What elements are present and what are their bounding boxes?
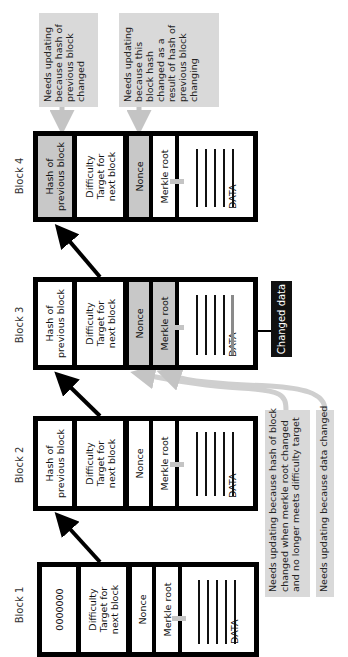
data-line [214, 149, 216, 207]
callout-block4-nonce: Needs updating because this block hash c… [119, 13, 219, 107]
block-2-nonce: Nonce [129, 421, 149, 506]
data-line [232, 149, 234, 207]
data-line [216, 580, 218, 644]
block-1-difficulty: Difficulty Target for next block [81, 567, 126, 652]
callout-block4-hash: Needs updating because hash of previous … [39, 13, 98, 107]
block-4-hash: Hash of previous block [38, 136, 72, 217]
changed-data-line [231, 295, 234, 355]
block-1-merkle-root: Merkle root [156, 567, 178, 652]
block-3-difficulty: Difficulty Target for next block [77, 282, 123, 365]
data-line [196, 149, 198, 207]
block-3-hash: Hash of previous block [38, 282, 72, 365]
data-line [214, 432, 216, 496]
block-3-merkle-root: Merkle root [153, 282, 175, 365]
data-line [207, 580, 209, 644]
merkle-arrow-icon [170, 462, 184, 467]
callout-block3-merkle: Needs updating because data changed [316, 410, 334, 597]
block-4-label: Block 4 [14, 141, 26, 211]
block-1: 0000000 Difficulty Target for next block… [37, 562, 259, 657]
data-line [205, 432, 207, 496]
block-4-data: DATA [179, 136, 253, 217]
merkle-arrow-icon [172, 616, 186, 621]
block-4-nonce: Nonce [129, 136, 149, 217]
data-line [214, 295, 216, 355]
data-line [205, 295, 207, 355]
block-2-difficulty: Difficulty Target for next block [77, 421, 123, 506]
block-3-data: DATA [179, 282, 253, 365]
data-line [223, 295, 225, 355]
data-line [198, 580, 200, 644]
chain-arrow-2-3 [60, 377, 100, 416]
data-line [196, 295, 198, 355]
curved-arrow-nonce [140, 374, 286, 410]
block-2-data: DATA [179, 421, 253, 506]
data-line [225, 580, 227, 644]
block-1-label: Block 1 [14, 570, 26, 640]
block-2-hash: Hash of previous block [38, 421, 72, 506]
merkle-arrow-icon [170, 179, 184, 184]
callout-block3-nonce: Needs updating because hash of block cha… [265, 410, 310, 597]
data-line [205, 149, 207, 207]
chain-arrow-3-4 [60, 230, 100, 277]
chain-arrow-1-2 [60, 518, 100, 562]
data-line [232, 432, 234, 496]
block-4: Hash of previous block Difficulty Target… [33, 131, 258, 222]
block-3: Hash of previous block Difficulty Target… [33, 277, 258, 370]
changed-data-label: Changed data [271, 281, 292, 357]
block-3-nonce: Nonce [129, 282, 149, 365]
block-1-nonce: Nonce [132, 567, 152, 652]
curved-arrow-merkle [166, 374, 325, 410]
block-2: Hash of previous block Difficulty Target… [33, 416, 258, 511]
data-line [234, 580, 236, 644]
block-4-merkle-root: Merkle root [153, 136, 175, 217]
block-1-hash: 0000000 [42, 567, 76, 652]
block-4-difficulty: Difficulty Target for next block [77, 136, 123, 217]
data-line [196, 432, 198, 496]
block-3-label: Block 3 [14, 290, 26, 360]
merkle-arrow-icon [170, 325, 184, 330]
block-2-label: Block 2 [14, 430, 26, 500]
block-1-data: DATA [182, 567, 254, 652]
data-line [223, 432, 225, 496]
data-line [223, 149, 225, 207]
